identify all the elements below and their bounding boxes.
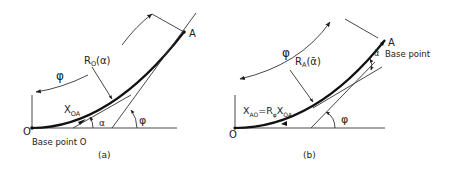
angle-phi-label-a: φ — [139, 114, 146, 127]
rotation-arc-top-a — [122, 14, 152, 45]
panel-b: O A Base point φ RA(ᾱ) XAO=RφXOA ᾱ φ (b) — [229, 19, 431, 160]
arc-label-leader-a — [92, 67, 112, 99]
length-label-a: XOA — [64, 104, 81, 118]
end-label-b: A — [388, 37, 395, 48]
base-point-label-a: Base point O — [32, 137, 87, 147]
phi-arc-b — [326, 112, 335, 128]
panel-a: O Base point O A φ RO(α) XOA α φ (a) — [23, 13, 196, 160]
figure-diagram: O Base point O A φ RO(α) XOA α φ (a) O A… — [0, 0, 457, 169]
origin-label-b: O — [229, 129, 237, 140]
alpha-arc-b — [370, 59, 372, 70]
alpha-arc-a — [90, 117, 93, 128]
curve-oa-a — [32, 32, 184, 128]
alpha-line-b — [313, 67, 382, 108]
normal-line-a — [152, 14, 184, 32]
rotation-label-b: φ — [282, 46, 290, 60]
end-label-a: A — [189, 28, 196, 39]
length-equation-b: XAO=RφXOA — [243, 105, 293, 119]
arc-label-a: RO(α) — [84, 55, 111, 68]
arc-label-leader-b — [290, 70, 313, 102]
caption-a: (a) — [98, 150, 111, 160]
caption-b: (b) — [303, 150, 316, 160]
base-point-label-b: Base point — [385, 49, 431, 59]
curve-reverse-arrow-b — [281, 121, 287, 126]
origin-label-a: O — [23, 126, 31, 137]
angle-alpha-label-b: ᾱ — [374, 49, 379, 58]
arc-label-b: RA(ᾱ) — [295, 56, 321, 69]
rotation-label-a: φ — [56, 69, 64, 83]
tangent-line-a — [112, 13, 196, 128]
phi-arc-a — [131, 110, 137, 128]
angle-alpha-label-a: α — [99, 118, 105, 128]
normal-line-b — [345, 19, 378, 38]
angle-phi-label-b: φ — [341, 113, 348, 126]
